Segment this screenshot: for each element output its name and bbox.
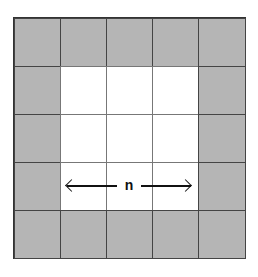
dimension-label: n: [121, 177, 137, 193]
grid-cell-shaded: [14, 162, 61, 211]
grid-cell-open: [60, 66, 107, 115]
grid-cell-shaded: [198, 210, 245, 259]
grid-cell-shaded: [106, 210, 153, 259]
grid-cell-shaded: [198, 66, 245, 115]
grid-cell-shaded: [198, 162, 245, 211]
dimension-arrow: n: [66, 178, 192, 194]
right-arrowhead-icon: [179, 179, 192, 192]
grid-cell-open: [106, 66, 153, 115]
grid-cell-shaded: [106, 18, 153, 67]
grid-cell-shaded: [60, 18, 107, 67]
grid-cell-open: [60, 114, 107, 163]
grid-cell-shaded: [60, 210, 107, 259]
grid-cell-shaded: [198, 18, 245, 67]
grid-cell-open: [106, 114, 153, 163]
grid-cell-shaded: [14, 66, 61, 115]
grid-cell-shaded: [14, 114, 61, 163]
grid-cell-shaded: [14, 18, 61, 67]
grid-cell-shaded: [152, 210, 199, 259]
grid-cell-open: [152, 66, 199, 115]
grid-cell-shaded: [152, 18, 199, 67]
square-grid: [13, 17, 246, 259]
left-arrow-line: [67, 185, 117, 187]
grid-cell-shaded: [14, 210, 61, 259]
grid-cell-open: [152, 114, 199, 163]
grid-cell-shaded: [198, 114, 245, 163]
